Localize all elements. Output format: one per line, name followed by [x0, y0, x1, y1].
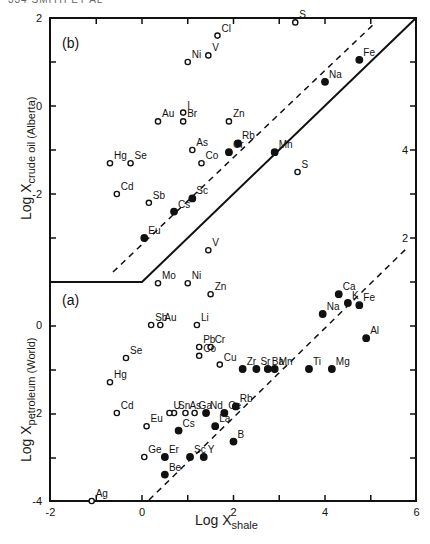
filled-data-point [329, 366, 335, 372]
element-label: Co [203, 343, 216, 354]
open-data-point [167, 410, 172, 415]
element-label: Cd [121, 181, 134, 192]
open-data-point [194, 322, 199, 327]
element-label: Sc [196, 185, 208, 196]
y-tick-label: 0 [36, 319, 42, 331]
filled-data-point [141, 235, 147, 241]
open-data-point [181, 110, 186, 115]
panel-label-b: (b) [62, 35, 79, 51]
reference-lines [50, 18, 416, 500]
plot-axes: 20-20-2-442-20246(b)(a) [32, 12, 419, 518]
filled-data-point [356, 57, 362, 63]
open-data-point [144, 424, 149, 429]
y-axis-label-a: Log Xpetroleum (World) [18, 338, 37, 462]
open-data-point [114, 410, 119, 415]
filled-data-point [363, 335, 369, 341]
element-label: Cl [221, 23, 230, 34]
element-label: Se [130, 345, 143, 356]
element-label: Br [187, 108, 198, 119]
filled-data-point [322, 79, 328, 85]
element-label: Ni [192, 49, 201, 60]
filled-data-point [239, 366, 245, 372]
open-data-point [192, 410, 197, 415]
element-label: V [212, 237, 219, 248]
filled-data-point [271, 149, 277, 155]
element-label: Mn [279, 356, 293, 367]
element-label: Sr [260, 356, 271, 367]
element-label: Er [169, 444, 180, 455]
filled-data-point [336, 291, 342, 297]
element-label: Cr [215, 334, 226, 345]
element-label: Ce [228, 400, 241, 411]
element-label: Na [329, 69, 342, 80]
element-label: Ag [96, 488, 108, 499]
element-label: Zn [215, 281, 227, 292]
element-label: Hg [114, 150, 127, 161]
element-label: Co [205, 150, 218, 161]
filled-data-point [162, 454, 168, 460]
element-label: Cu [224, 352, 237, 363]
panel-label-a: (a) [62, 292, 79, 308]
element-label: Ti [313, 356, 321, 367]
open-data-point [183, 410, 188, 415]
open-data-point [199, 161, 204, 166]
open-data-point [208, 292, 213, 297]
element-label: Fe [363, 47, 375, 58]
element-label: Cr [233, 139, 244, 150]
element-label: Mn [279, 139, 293, 150]
element-label: Nd [210, 400, 223, 411]
filled-data-point [171, 208, 177, 214]
element-label: Au [164, 312, 176, 323]
filled-data-point [212, 423, 218, 429]
element-label: Cs [183, 418, 195, 429]
element-label: La [219, 413, 231, 424]
open-data-point [197, 344, 202, 349]
element-label: Li [201, 312, 209, 323]
element-label: B [238, 429, 245, 440]
open-data-point [215, 33, 220, 38]
x-tick-label: -2 [46, 506, 56, 518]
x-axis-label: Log Xshale [195, 512, 258, 531]
element-label: S [302, 159, 309, 170]
element-label: Ge [148, 444, 162, 455]
open-data-point [206, 53, 211, 58]
filled-data-point [345, 300, 351, 306]
x-tick-label: 0 [139, 506, 145, 518]
y-tick-label: -4 [32, 495, 42, 507]
element-label: Cs [178, 199, 190, 210]
element-label: Mo [162, 270, 176, 281]
element-label: Hg [114, 369, 127, 380]
element-label: U [173, 400, 180, 411]
element-label: Fe [363, 292, 375, 303]
data-points: ClSVNiFeNaAuIBrZnAsRbCrMnCoHgSeSCdSbScCs… [89, 9, 379, 503]
element-label: Al [370, 325, 379, 336]
element-label: Zn [233, 108, 245, 119]
element-label: Na [327, 301, 340, 312]
open-data-point [123, 355, 128, 360]
right-tick-label: 2 [402, 232, 408, 244]
x-tick-label: 6 [413, 506, 419, 518]
element-label: Eu [148, 225, 160, 236]
filled-data-point [306, 366, 312, 372]
open-data-point [217, 362, 222, 367]
filled-data-point [201, 454, 207, 460]
element-label: Ga [199, 400, 213, 411]
open-data-point [197, 353, 202, 358]
filled-data-point [230, 438, 236, 444]
element-label: Rb [242, 130, 255, 141]
element-label: Y [208, 444, 215, 455]
element-label: Sb [153, 190, 166, 201]
element-label: Eu [151, 413, 163, 424]
open-data-point [295, 169, 300, 174]
open-data-point [89, 498, 94, 503]
filled-data-point [356, 302, 362, 308]
filled-data-point [265, 366, 271, 372]
filled-data-point [175, 427, 181, 433]
filled-data-point [187, 454, 193, 460]
element-label: V [212, 42, 219, 53]
open-data-point [206, 248, 211, 253]
filled-data-point [271, 366, 277, 372]
filled-data-point [226, 149, 232, 155]
filled-data-point [253, 366, 259, 372]
open-data-point [114, 191, 119, 196]
